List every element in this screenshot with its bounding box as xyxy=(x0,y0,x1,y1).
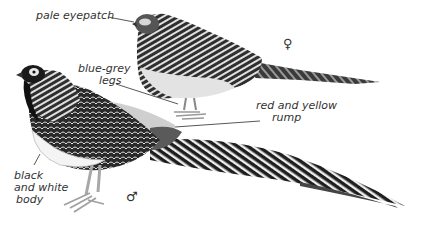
legs-label: blue-grey legs xyxy=(78,63,131,87)
rump-leader-line xyxy=(175,121,260,127)
male-symbol: ♂ xyxy=(126,189,138,204)
female-symbol: ♀ xyxy=(283,36,293,51)
body-label: black and white body xyxy=(14,170,68,206)
legs-label-line2: legs xyxy=(78,75,131,87)
eyepatch-label-text: pale eyepatch xyxy=(36,9,114,22)
body-label-line3: body xyxy=(14,194,68,206)
rump-label-line2: rump xyxy=(256,112,337,124)
pheasant-illustration: pale eyepatch blue-grey legs red and yel… xyxy=(0,0,434,225)
eyepatch-label: pale eyepatch xyxy=(36,10,114,22)
rump-label: red and yellow rump xyxy=(256,100,337,124)
body-leader-line xyxy=(34,154,40,165)
